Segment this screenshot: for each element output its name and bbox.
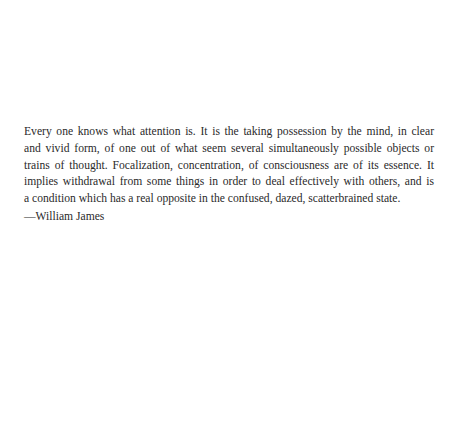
quote-block: Every one knows what attention is. It is…: [24, 124, 434, 226]
quote-line: a condition which has a real opposite in…: [24, 191, 434, 208]
quote-line: Every one knows what attention is. It is…: [24, 124, 434, 141]
quote-attribution: —William James: [24, 209, 434, 226]
quote-line: implies withdrawal from some things in o…: [24, 174, 434, 191]
quote-line: and vivid form, of one out of what seem …: [24, 141, 434, 158]
quote-line: trains of thought. Focalization, concent…: [24, 158, 434, 175]
quote-text: Every one knows what attention is. It is…: [24, 124, 434, 208]
